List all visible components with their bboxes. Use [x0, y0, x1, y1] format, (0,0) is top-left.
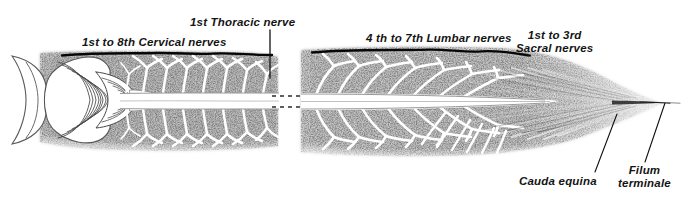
label-sacral-nerves: 1st to 3rd Sacral nerves	[516, 29, 593, 54]
label-filum-terminale: Filum terminale	[618, 164, 671, 189]
label-sacral-line2: Sacral nerves	[516, 42, 593, 55]
label-cauda-equina: Cauda equina	[519, 175, 597, 187]
label-sacral-line1: 1st to 3rd	[516, 29, 593, 42]
label-filum-line1: Filum	[618, 164, 671, 177]
label-thoracic-nerve: 1st Thoracic nerve	[190, 16, 295, 28]
label-cervical-nerves: 1st to 8th Cervical nerves	[82, 36, 227, 48]
spinal-cord-left	[120, 93, 279, 109]
label-lumbar-nerves: 4 th to 7th Lumbar nerves	[366, 32, 512, 44]
label-filum-line2: terminale	[618, 177, 671, 190]
spinal-cord-figure: 1st to 8th Cervical nerves 1st Thoracic …	[0, 0, 684, 200]
